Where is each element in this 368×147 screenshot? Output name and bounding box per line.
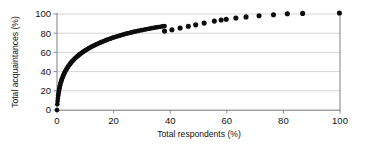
x-tick-label-0: 0 [54, 115, 59, 126]
chart-figure: 020406080100 020406080100 Total responde… [0, 0, 368, 147]
x-tick-label-40: 40 [165, 115, 176, 126]
data-point [300, 11, 305, 16]
y-tick-label-60: 60 [40, 47, 51, 58]
data-point [202, 21, 207, 26]
scatter-plot: 020406080100 020406080100 Total responde… [0, 0, 368, 147]
data-point [271, 12, 276, 17]
data-point [337, 10, 342, 15]
x-tick-label-80: 80 [278, 115, 289, 126]
data-point [169, 27, 174, 32]
data-point [193, 22, 198, 27]
x-tick-label-20: 20 [108, 115, 119, 126]
data-point [162, 29, 167, 34]
data-point [285, 11, 290, 16]
data-point [233, 15, 238, 20]
y-tick-label-40: 40 [40, 66, 51, 77]
data-point [212, 19, 217, 24]
x-tick-label-60: 60 [222, 115, 233, 126]
y-tick-label-0: 0 [46, 104, 51, 115]
y-tick-label-80: 80 [40, 28, 51, 39]
data-point [178, 25, 183, 30]
data-point [219, 17, 224, 22]
data-point [224, 17, 229, 22]
data-point [257, 13, 262, 18]
data-point [186, 24, 191, 29]
data-point [243, 14, 248, 19]
y-axis-title: Total acquaintances (%) [10, 16, 20, 108]
y-tick-label-100: 100 [35, 8, 51, 19]
x-axis-title: Total respondents (%) [157, 129, 241, 139]
x-tick-label-100: 100 [332, 115, 348, 126]
y-tick-label-20: 20 [40, 85, 51, 96]
data-point [55, 108, 60, 113]
data-point [162, 24, 167, 29]
